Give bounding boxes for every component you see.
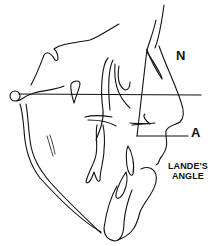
landes-angle-line1: LANDE'S	[168, 161, 208, 171]
nasion-label: N	[176, 49, 185, 62]
molar-tooth	[86, 125, 104, 183]
incisor-upper	[126, 146, 133, 175]
soft-tissue-nose	[156, 46, 183, 165]
maxilla-outline	[85, 116, 112, 118]
orbit-rim	[118, 66, 130, 90]
porion-circle	[10, 91, 20, 101]
symphysis-outline	[104, 186, 132, 241]
cranial-base-outline	[31, 24, 119, 85]
skull-profile-tracing	[0, 0, 221, 246]
point-a-label: A	[191, 126, 200, 139]
frontal-bone-line-2	[147, 20, 156, 50]
incisor-lower	[116, 172, 127, 198]
cephalometric-diagram: N A LANDE'S ANGLE	[0, 0, 221, 246]
cervical-line-1	[47, 136, 53, 156]
orbit-outline-1	[96, 58, 108, 140]
ramus-posterior-outline	[20, 104, 101, 232]
pterygomaxillary-fissure	[71, 81, 80, 103]
ramus-inner-outline	[26, 104, 101, 233]
landes-angle-line2: ANGLE	[168, 171, 208, 181]
orbit-floor	[115, 64, 130, 108]
nasal-bone-2	[147, 52, 162, 78]
orbit-outline-2	[109, 60, 113, 110]
nasal-floor	[130, 114, 150, 124]
frankfort-horizontal-line	[19, 94, 201, 95]
landes-angle-label: LANDE'S ANGLE	[168, 161, 208, 181]
frontal-bone-line	[155, 5, 164, 48]
cervical-line-2	[50, 135, 55, 154]
